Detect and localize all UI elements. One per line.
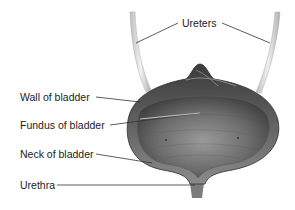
wall-leader <box>96 97 140 102</box>
right-ureter <box>256 12 280 93</box>
bladder-diagram: Ureters Wall of bladder Fundus of bladde… <box>0 0 295 210</box>
left-ureteric-orifice <box>165 139 167 141</box>
label-fundus-of-bladder: Fundus of bladder <box>20 119 105 131</box>
label-neck-of-bladder: Neck of bladder <box>20 148 94 160</box>
label-urethra: Urethra <box>20 179 55 191</box>
left-ureter <box>130 12 151 92</box>
ureters-leader-right <box>222 23 270 43</box>
label-ureters: Ureters <box>182 17 216 29</box>
right-ureteric-orifice <box>237 137 239 139</box>
ureters-leader-left <box>136 23 178 43</box>
label-wall-of-bladder: Wall of bladder <box>20 91 90 103</box>
